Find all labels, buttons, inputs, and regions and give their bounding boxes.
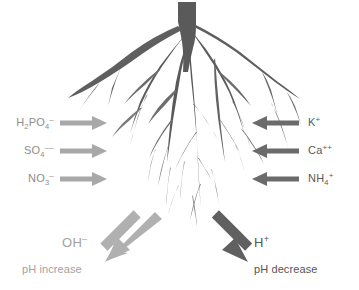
cation-label-k: K+ <box>308 117 320 128</box>
root-hair-6 <box>192 195 197 227</box>
root-branch-right-inner-sub3 <box>241 129 264 164</box>
root-main-stem <box>178 2 196 72</box>
root-hair-7 <box>168 185 179 215</box>
cation-label-ca: Ca++ <box>308 145 332 156</box>
root-hair-3 <box>211 169 220 208</box>
root-hair-4 <box>148 149 156 182</box>
root-branch-right-inner-sub2 <box>232 101 251 150</box>
ph-increase-text: pH increase <box>22 264 82 275</box>
root-branch-right-far-tip3 <box>271 103 289 152</box>
cation-label-nh4: NH4+ <box>308 173 334 184</box>
root-branch-left-inner-sub2 <box>130 94 148 146</box>
root-branch-right-far <box>194 24 300 99</box>
cation-arrow-nh4 <box>252 172 299 186</box>
root-branch-center-main-sub1 <box>193 104 219 142</box>
anion-label-so4: SO4–– <box>8 145 54 156</box>
ph-increase-text-value: pH increase <box>22 263 82 275</box>
anion-label-no3: NO3– <box>8 173 54 184</box>
ph-increase-arrow <box>100 210 162 262</box>
cation-arrow-k <box>252 116 299 130</box>
root-hair-2 <box>180 161 185 200</box>
cation-arrow-ca <box>252 144 299 158</box>
anion-arrow-no3 <box>60 172 107 186</box>
root-hair-5 <box>235 145 246 178</box>
plant-root-system <box>68 2 302 227</box>
anion-arrow-h2po4 <box>60 116 107 130</box>
cation-uptake-arrows <box>252 116 299 186</box>
ph-increase-ion-label: OH– <box>62 236 87 249</box>
ph-decrease-text-value: pH decrease <box>254 263 317 275</box>
root-branch-center-main <box>188 50 201 210</box>
ph-decrease-text: pH decrease <box>254 264 317 275</box>
root-branch-center-main-sub2 <box>175 132 197 170</box>
root-branch-left-inner-sub3 <box>112 108 142 137</box>
root-hair-1 <box>166 167 171 206</box>
ph-decrease-arrow <box>212 210 252 262</box>
anion-uptake-arrows <box>60 116 107 186</box>
root-branch-center-main-sub3 <box>198 158 219 196</box>
anion-arrow-so4 <box>60 144 107 158</box>
root-ion-exchange-diagram: H2PO4– SO4–– NO3– K+ Ca++ NH4+ OH– pH in… <box>0 0 359 290</box>
ph-decrease-ion-label: H+ <box>254 236 269 249</box>
anion-label-h2po4: H2PO4– <box>8 117 54 128</box>
root-branch-center-left-sub3 <box>158 145 169 186</box>
